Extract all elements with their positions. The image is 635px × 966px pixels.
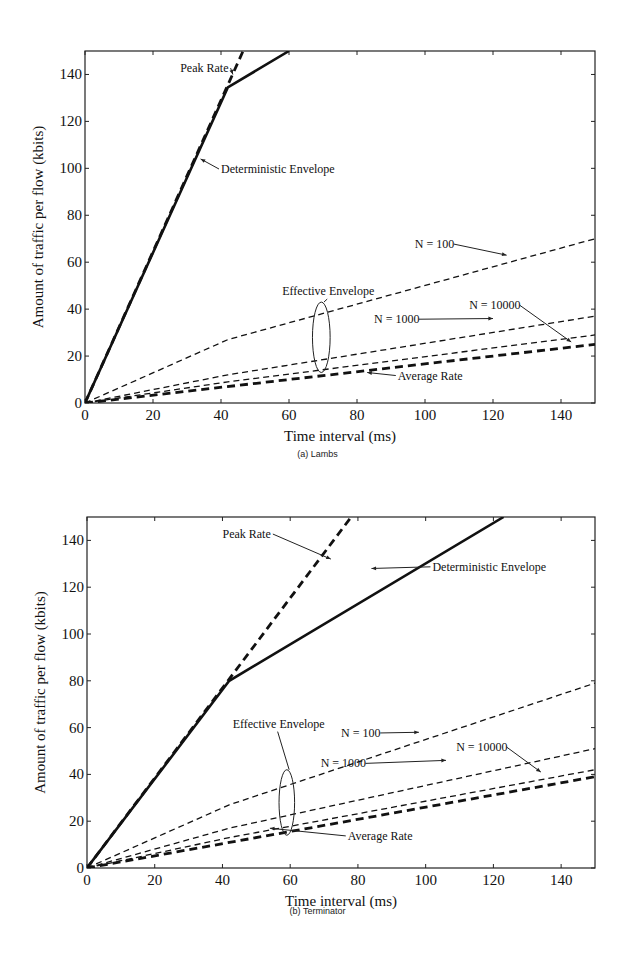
x-tick-label: 80 bbox=[350, 872, 365, 888]
annotation-n-100: N = 100 bbox=[341, 726, 380, 740]
x-tick-label: 120 bbox=[482, 872, 505, 888]
x-tick-label: 100 bbox=[414, 872, 437, 888]
annotation-deterministic-envelope: Deterministic Envelope bbox=[432, 560, 546, 574]
y-tick-label: 120 bbox=[62, 579, 85, 595]
y-tick-label: 40 bbox=[69, 766, 84, 782]
y-tick-label: 80 bbox=[69, 673, 84, 689]
annotation-n-10000: N = 10000 bbox=[456, 740, 507, 754]
x-tick-label: 0 bbox=[83, 872, 91, 888]
arrow-head-icon bbox=[414, 730, 419, 734]
series-n-100 bbox=[87, 683, 595, 868]
effective-envelope-ellipse bbox=[279, 770, 295, 836]
x-tick-label: 40 bbox=[215, 872, 230, 888]
y-tick-label: 0 bbox=[77, 860, 85, 876]
y-axis-label: Amount of traffic per flow (kbits) bbox=[32, 591, 49, 794]
annotation-average-rate: Average Rate bbox=[348, 829, 413, 843]
arrow-head-icon bbox=[371, 566, 376, 570]
annotation-peak-rate: Peak Rate bbox=[222, 527, 270, 541]
series-n-10000 bbox=[87, 770, 595, 868]
annotation-n-1000: N = 1000 bbox=[321, 756, 366, 770]
y-tick-label: 100 bbox=[62, 626, 85, 642]
x-tick-label: 140 bbox=[550, 872, 573, 888]
series-average-rate bbox=[87, 777, 595, 868]
chart-panel-b: 020406080100120140020406080100120140Time… bbox=[0, 0, 635, 966]
y-tick-label: 60 bbox=[69, 720, 84, 736]
chart-b-plot: 020406080100120140020406080100120140Time… bbox=[0, 0, 635, 966]
arrow-head-icon bbox=[441, 759, 446, 763]
y-tick-label: 20 bbox=[69, 813, 84, 829]
chart-b-caption: (b) Terminator bbox=[0, 906, 635, 916]
x-tick-label: 60 bbox=[283, 872, 298, 888]
x-tick-label: 20 bbox=[147, 872, 162, 888]
y-tick-label: 140 bbox=[62, 532, 85, 548]
annotation-effective-envelope: Effective Envelope bbox=[233, 717, 325, 731]
arrow-head-icon bbox=[536, 768, 541, 772]
